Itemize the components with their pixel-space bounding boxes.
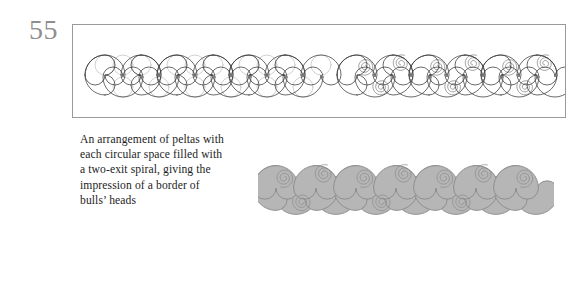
peltas-lower-row-left xyxy=(103,67,323,97)
pelta-line-drawing-svg xyxy=(73,25,565,117)
caption-line-2: each circular space filled with xyxy=(80,147,256,162)
caption-line-3: a two-exit spiral, giving the xyxy=(80,162,256,177)
figure-plate-page: 55 xyxy=(0,0,588,287)
filled-pattern-panel xyxy=(258,140,554,240)
plate-frame xyxy=(72,24,566,118)
caption-line-5: bulls’ heads xyxy=(80,193,256,208)
caption-line-1: An arrangement of peltas with xyxy=(80,132,256,147)
filled-peltas-upper xyxy=(258,166,538,200)
peltas-upper-row-right xyxy=(337,55,557,85)
peltas-upper-row-left xyxy=(85,55,341,85)
figure-number: 55 xyxy=(29,15,58,45)
line-art-right-group xyxy=(337,55,565,97)
two-exit-spirals-right xyxy=(359,55,551,95)
pelta-filled-svg xyxy=(258,140,554,240)
caption-line-4: impression of a border of xyxy=(80,178,256,193)
line-art-left-group xyxy=(85,55,341,97)
figure-caption: An arrangement of peltas with each circu… xyxy=(80,132,256,208)
